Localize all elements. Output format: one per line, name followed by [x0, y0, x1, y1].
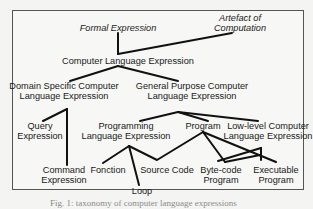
node-source-code: Source Code — [140, 165, 194, 175]
node-bytecode-line1: Byte-code — [200, 165, 241, 175]
node-bytecode-line2: Program — [200, 175, 241, 185]
node-general-purpose-line2: Language Expression — [136, 91, 248, 101]
node-query-line2: Expression — [17, 131, 62, 141]
node-domain-specific: Domain Specific Computer Language Expres… — [9, 81, 118, 101]
node-executable-program: Executable Program — [253, 165, 298, 185]
node-domain-specific-line2: Language Expression — [9, 91, 118, 101]
node-general-purpose-line1: General Purpose Computer — [136, 81, 248, 91]
node-low-level-line2: Language Expression — [224, 131, 313, 141]
node-artefact-of-computation: Artefact of Computation — [214, 13, 266, 33]
node-query-line1: Query — [17, 121, 62, 131]
figure-caption: Fig. 1: taxonomy of computer language ex… — [50, 198, 237, 208]
node-query-expression: Query Expression — [17, 121, 62, 141]
node-executable-line1: Executable — [253, 165, 298, 175]
node-formal-expression: Formal Expression — [80, 23, 157, 33]
node-executable-line2: Program — [253, 175, 298, 185]
node-programming-language-expression: Programming Language Expression — [82, 121, 171, 141]
node-programming-line1: Programming — [82, 121, 171, 131]
node-bytecode-program: Byte-code Program — [200, 165, 241, 185]
node-artefact-line1: Artefact of — [214, 13, 266, 23]
node-command-line2: Expression — [41, 175, 86, 185]
node-low-level: Low-level Computer Language Expression — [224, 121, 313, 141]
node-domain-specific-line1: Domain Specific Computer — [9, 81, 118, 91]
node-artefact-line2: Computation — [214, 23, 266, 33]
node-command-expression: Command Expression — [41, 165, 86, 185]
node-fonction: Fonction — [90, 165, 125, 175]
node-programming-line2: Language Expression — [82, 131, 171, 141]
node-general-purpose: General Purpose Computer Language Expres… — [136, 81, 248, 101]
node-command-line1: Command — [41, 165, 86, 175]
node-low-level-line1: Low-level Computer — [224, 121, 313, 131]
node-computer-language-expression: Computer Language Expression — [62, 56, 194, 66]
node-program: Program — [185, 121, 220, 131]
node-loop: Loop — [132, 186, 152, 196]
